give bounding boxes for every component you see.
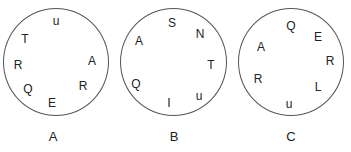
letter: u [286,98,293,110]
letter: Q [131,78,140,90]
letter: T [21,33,28,45]
circle-label-b: B [170,130,179,143]
circle-label-c: C [286,130,295,143]
letter: Q [23,83,32,95]
letter: A [135,35,143,47]
circle-label-a: A [49,130,58,143]
letter: R [254,73,263,85]
letter: u [53,15,60,27]
letter: A [88,55,96,67]
letter: L [315,81,322,93]
letter: R [326,55,335,67]
letter: T [207,59,214,71]
letter: S [168,17,176,29]
letter: E [314,31,322,43]
letter: R [79,80,88,92]
letter: E [48,97,56,109]
letter: Q [286,20,295,32]
letter: R [14,59,23,71]
letter: A [257,41,265,53]
letter: N [196,28,205,40]
letter: I [167,97,170,109]
letter: u [196,90,203,102]
